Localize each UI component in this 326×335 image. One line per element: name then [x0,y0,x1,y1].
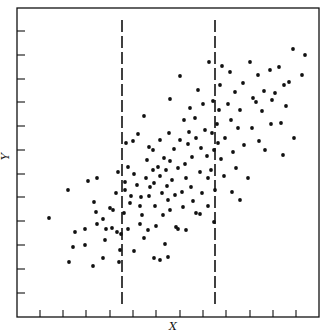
data-point [95,176,99,180]
data-point [86,179,90,183]
data-point [91,264,95,268]
data-point [176,166,180,170]
data-point [142,114,146,118]
data-point [287,80,291,84]
data-point [71,245,75,249]
data-point [198,212,202,216]
data-point [250,126,254,130]
data-point [205,154,209,158]
data-point [118,248,122,252]
data-point [203,128,207,132]
data-point [123,180,127,184]
scatter-points [47,47,307,268]
data-point [147,194,151,198]
data-point [73,230,77,234]
data-point [140,213,144,217]
data-point [115,230,119,234]
y-axis-label: Y [0,153,12,160]
data-point [260,109,264,113]
data-point [191,199,195,203]
data-point [210,131,214,135]
data-point [226,102,230,106]
data-point [103,238,107,242]
data-point [217,108,221,112]
data-point [292,136,296,140]
data-point [234,166,238,170]
data-point [206,176,210,180]
data-point [183,162,187,166]
data-point [138,204,142,208]
data-point [222,174,226,178]
data-point [94,210,98,214]
data-point [254,100,258,104]
x-axis-label: X [169,320,177,333]
data-point [281,153,285,157]
data-point [162,156,166,160]
data-point [194,211,198,215]
data-point [184,228,188,232]
data-point [168,159,172,163]
data-point [230,190,234,194]
data-point [128,201,132,205]
data-point [190,155,194,159]
data-point [257,139,261,143]
data-point [194,136,198,140]
data-point [92,200,96,204]
data-point [178,138,182,142]
data-point [233,90,237,94]
data-point [198,170,202,174]
data-point [200,191,204,195]
data-point [262,89,266,93]
data-point [206,204,210,208]
data-point [186,142,190,146]
data-point [158,258,162,262]
data-point [66,188,70,192]
data-point [144,176,148,180]
data-point [242,143,246,147]
data-point [161,213,165,217]
data-point [212,220,216,224]
data-point [219,157,223,161]
data-point [152,256,156,260]
data-point [167,131,171,135]
data-point [95,222,99,226]
data-point [231,150,235,154]
data-point [156,165,160,169]
data-point [148,185,152,189]
data-point [116,170,120,174]
data-point [215,122,219,126]
data-point [216,141,220,145]
plot-frame [17,8,319,317]
data-point [176,227,180,231]
data-point [172,147,176,151]
data-point [117,260,121,264]
data-point [126,227,130,231]
data-point [151,168,155,172]
data-point [201,102,205,106]
data-point [158,174,162,178]
data-point [211,99,215,103]
data-point [136,132,140,136]
data-point [166,255,170,259]
data-point [182,118,186,122]
data-point [168,97,172,101]
data-point [277,65,281,69]
data-point [119,232,123,236]
data-point [132,249,136,253]
data-point [218,83,222,87]
data-point [152,181,156,185]
data-point [165,184,169,188]
data-point [123,188,127,192]
data-point [268,68,272,72]
data-point [160,191,164,195]
data-point [145,158,149,162]
data-point [180,190,184,194]
data-point [163,242,167,246]
data-point [238,108,242,112]
data-point [158,138,162,142]
data-point [47,216,51,220]
data-point [228,70,232,74]
data-point [83,243,87,247]
data-point [256,73,260,77]
data-point [188,106,192,110]
